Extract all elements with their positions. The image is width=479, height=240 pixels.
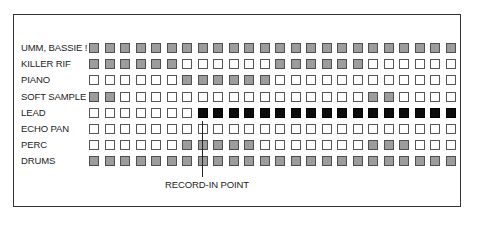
- pattern-cell: [105, 43, 115, 53]
- pattern-cell: [353, 92, 363, 102]
- pattern-cell: [105, 59, 115, 69]
- pattern-cell: [198, 108, 208, 118]
- pattern-cell: [275, 108, 285, 118]
- pattern-cell: [213, 140, 223, 150]
- pattern-cell: [306, 75, 316, 85]
- pattern-cell: [229, 124, 239, 134]
- pattern-cell: [120, 75, 130, 85]
- pattern-cell: [446, 156, 456, 166]
- track-label: KILLER RIF: [21, 58, 71, 70]
- pattern-cell: [89, 92, 99, 102]
- pattern-cell: [120, 140, 130, 150]
- pattern-cell: [430, 156, 440, 166]
- pattern-cell: [291, 43, 301, 53]
- pattern-cell: [291, 92, 301, 102]
- pattern-cell: [337, 108, 347, 118]
- pattern-cell: [430, 43, 440, 53]
- pattern-cell: [260, 124, 270, 134]
- pattern-cell: [353, 43, 363, 53]
- pattern-cell: [399, 92, 409, 102]
- pattern-cell: [337, 156, 347, 166]
- pattern-cell: [151, 156, 161, 166]
- pattern-cell: [337, 140, 347, 150]
- pattern-cell: [430, 75, 440, 85]
- track-label: LEAD: [21, 107, 45, 119]
- pattern-cell: [275, 92, 285, 102]
- pattern-cell: [399, 108, 409, 118]
- pattern-cell: [229, 108, 239, 118]
- pattern-cell: [399, 156, 409, 166]
- pattern-cell: [430, 92, 440, 102]
- pattern-cell: [260, 92, 270, 102]
- pattern-cell: [120, 108, 130, 118]
- pattern-cell: [105, 140, 115, 150]
- pattern-cell: [306, 43, 316, 53]
- pattern-cell: [136, 75, 146, 85]
- pattern-cell: [229, 156, 239, 166]
- pattern-cell: [291, 75, 301, 85]
- pattern-cell: [244, 92, 254, 102]
- pattern-cell: [120, 156, 130, 166]
- pattern-cell: [368, 75, 378, 85]
- pattern-cell: [353, 108, 363, 118]
- pattern-cell: [399, 140, 409, 150]
- pattern-cell: [136, 108, 146, 118]
- pattern-cell: [384, 43, 394, 53]
- pattern-cell: [399, 124, 409, 134]
- track-label: DRUMS: [21, 155, 55, 167]
- pattern-cell: [368, 140, 378, 150]
- pattern-cell: [384, 108, 394, 118]
- pattern-cell: [151, 59, 161, 69]
- pattern-cell: [368, 156, 378, 166]
- pattern-cell: [337, 124, 347, 134]
- pattern-cell: [430, 124, 440, 134]
- pattern-cell: [446, 124, 456, 134]
- pattern-cell: [244, 43, 254, 53]
- pattern-cell: [446, 75, 456, 85]
- pattern-cell: [260, 75, 270, 85]
- pattern-cell: [415, 43, 425, 53]
- pattern-cell: [415, 92, 425, 102]
- pattern-cell: [260, 108, 270, 118]
- pattern-cell: [167, 59, 177, 69]
- pattern-cell: [182, 156, 192, 166]
- pattern-cell: [105, 156, 115, 166]
- pattern-cell: [89, 59, 99, 69]
- pattern-cell: [322, 108, 332, 118]
- pattern-cell: [415, 140, 425, 150]
- pattern-cell: [337, 59, 347, 69]
- pattern-cell: [213, 108, 223, 118]
- pattern-cell: [260, 59, 270, 69]
- pattern-cell: [306, 124, 316, 134]
- pattern-cell: [244, 140, 254, 150]
- pattern-cell: [213, 59, 223, 69]
- pattern-cell: [167, 43, 177, 53]
- pattern-cell: [353, 75, 363, 85]
- pattern-cell: [167, 75, 177, 85]
- pattern-cell: [384, 140, 394, 150]
- pattern-cell: [182, 140, 192, 150]
- pattern-cell: [136, 124, 146, 134]
- pattern-cell: [415, 108, 425, 118]
- pattern-cell: [291, 124, 301, 134]
- record-in-label: RECORD-IN POINT: [165, 179, 249, 190]
- pattern-cell: [399, 43, 409, 53]
- pattern-cell: [260, 140, 270, 150]
- pattern-cell: [89, 43, 99, 53]
- pattern-cell: [120, 92, 130, 102]
- pattern-cell: [244, 59, 254, 69]
- pattern-cell: [167, 156, 177, 166]
- pattern-cell: [322, 59, 332, 69]
- pattern-cell: [384, 156, 394, 166]
- pattern-cell: [229, 140, 239, 150]
- pattern-cell: [322, 156, 332, 166]
- pattern-cell: [105, 108, 115, 118]
- pattern-cell: [337, 75, 347, 85]
- pattern-cell: [384, 92, 394, 102]
- pattern-cell: [136, 156, 146, 166]
- track-label: SOFT SAMPLE: [21, 91, 86, 103]
- pattern-cell: [306, 92, 316, 102]
- pattern-cell: [136, 92, 146, 102]
- record-in-marker-line: [202, 121, 203, 177]
- pattern-cell: [198, 59, 208, 69]
